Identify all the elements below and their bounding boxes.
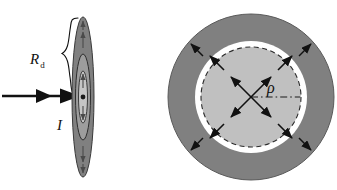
radius-label: Rd [30, 52, 45, 70]
face-on-view-panel [165, 0, 337, 190]
edge-on-view-panel: Rd I [0, 0, 165, 190]
physics-diagram: Rd I [0, 0, 337, 190]
rho-label: ρ [267, 80, 275, 96]
current-label: I [57, 118, 62, 133]
disc-edge-on [72, 17, 94, 177]
current-arrow [2, 89, 79, 103]
injection-point [81, 95, 86, 100]
